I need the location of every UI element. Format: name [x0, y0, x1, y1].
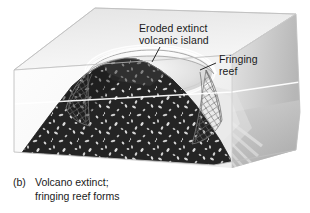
- caption-panel-tag: (b): [13, 176, 35, 190]
- figure-volcano-fringing-reef: Eroded extinct volcanic island Fringing …: [0, 0, 310, 213]
- caption-line-1: Volcano extinct;: [35, 176, 109, 190]
- figure-caption: (b) Volcano extinct; fringing reef forms: [13, 176, 193, 203]
- caption-line-2: fringing reef forms: [13, 190, 193, 204]
- caption-line-1-row: (b) Volcano extinct;: [13, 176, 193, 190]
